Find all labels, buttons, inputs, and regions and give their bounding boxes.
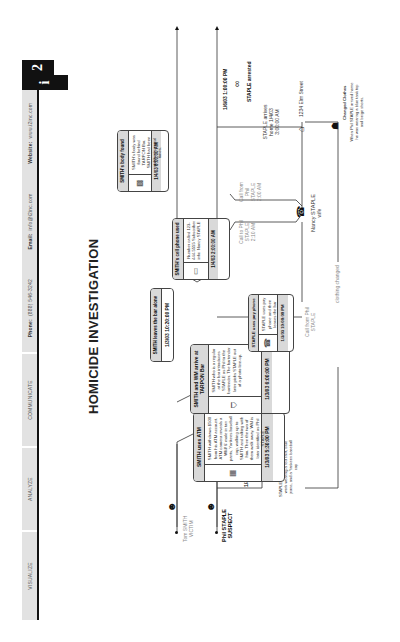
house-icon: ⌂ — [296, 127, 306, 132]
person-icon: ☻ — [166, 501, 177, 512]
person-phil-staple[interactable]: Phil STAPLESUSPECT — [221, 509, 233, 542]
card-timestamp: 1/3/03 10:20:00 PM — [162, 289, 172, 361]
arrest-label: STAPLE arrested — [246, 62, 252, 102]
card-title: SMITH's cell phone used — [173, 219, 184, 279]
payphone-icon: ☎ — [259, 334, 277, 351]
timeline-connectors — [0, 0, 400, 642]
person-tom-smith[interactable]: Tom SMITHVICTIM — [182, 516, 194, 542]
rotated-page: VISUALIZE ANALYZE COMMUNICATE Phone:(888… — [0, 0, 400, 642]
changed-clothes-note: When Phil STAPLE arrived home he was wea… — [349, 82, 364, 142]
event-card-body-found[interactable]: SMITH's body found ▩SMITH's body was fou… — [117, 130, 169, 192]
card-body: SMITH withdraws $500 from his ATM accoun… — [205, 413, 261, 464]
card-timestamp: 1/3/03 6:00:00 PM — [262, 345, 272, 413]
card-timestamp: 1/4/03 2:00:00 AM — [209, 219, 219, 279]
card-title: SMITH and WM arrive at TARPON Bar — [191, 345, 209, 413]
card-body: SMITH's body was found behind TARPON Bar… — [129, 131, 151, 174]
call-from-phil-2am-note: Call from Phil STAPLE 2:00 AM — [238, 178, 262, 206]
event-card-pay-phone[interactable]: STAPLE uses pay phone ☎STAPLE uses pay p… — [248, 294, 294, 352]
card-title: SMITH's body found — [118, 131, 129, 191]
timeline-start-dot — [175, 531, 178, 534]
changed-clothes-title: Changed Clothes — [342, 86, 347, 120]
card-title: STAPLE uses pay phone — [249, 295, 259, 351]
card-body: STAPLE uses pay phone and then leaves th… — [259, 295, 277, 334]
card-timestamp: 1/3/03 10:00:00 PM — [278, 295, 287, 351]
call-to-phil-note: Call to Phil STAPLE 2:10 AM — [238, 218, 256, 246]
timeline-start-dot — [215, 531, 218, 534]
person-icon: ☻ — [205, 501, 216, 512]
atm-icon: ▦ — [205, 464, 261, 481]
card-title: SMITH uses ATM — [194, 413, 205, 481]
call-from-phil-note: Call from Phil STAPLE — [304, 302, 316, 342]
event-card-atm[interactable]: SMITH uses ATM ▦SMITH withdraws $500 fro… — [193, 412, 285, 482]
address-label: 1234 Elm Street — [298, 81, 304, 117]
event-card-tarpon[interactable]: SMITH and WM arrive at TARPON Bar ⛉SMITH… — [190, 344, 290, 414]
event-card-cell-phone[interactable]: SMITH's cell phone used ▭Number called 1… — [172, 218, 230, 280]
clothing-changed-note: clothing changed — [334, 262, 340, 306]
cellphone-icon: ▭ — [184, 262, 208, 279]
staple-arrives-home-note: STAPLE arrives home 1/4/03 3:00:00 AM — [262, 102, 280, 142]
phone-person-icon: ☎ — [295, 206, 306, 218]
person-nancy-staple[interactable]: Nancy STAPLEwife — [310, 194, 322, 232]
card-timestamp: 1/3/03 5:30:00 PM — [262, 413, 272, 481]
arrest-time: 1/6/03 1:00:00 PM — [222, 69, 228, 110]
clothes-icon: ☗ — [330, 122, 340, 130]
card-title: SMITH leaves the bar alone — [151, 289, 162, 361]
card-body: Number called 123-444-5555 Subscriber in… — [184, 219, 208, 262]
handcuffs-icon: ∞ — [232, 81, 242, 87]
card-body: SMITH who is a regular at the bar introd… — [209, 345, 261, 396]
bar-icon: ⛉ — [209, 396, 261, 413]
event-card-leaves-bar[interactable]: SMITH leaves the bar alone 1/3/03 10:20:… — [150, 288, 174, 362]
evidence-icon: ▩ — [129, 174, 151, 191]
